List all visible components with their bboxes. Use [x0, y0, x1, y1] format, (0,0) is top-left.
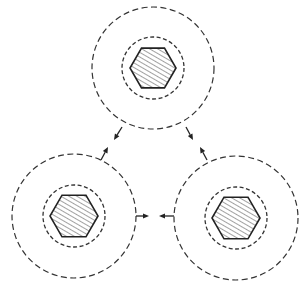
arrow-bottom-right-to-bottom-left	[159, 213, 174, 218]
arrowhead-icon	[143, 213, 149, 218]
arrowhead-icon	[159, 213, 165, 218]
particle-bottom-left	[12, 154, 136, 278]
arrow-top-to-bottom-left	[114, 127, 122, 140]
arrow-bottom-right-to-top	[200, 147, 207, 160]
particle-bottom-right	[174, 156, 298, 280]
arrow-shaft	[186, 127, 190, 135]
arrow-shaft	[117, 127, 122, 135]
arrow-bottom-left-to-top	[101, 147, 108, 160]
arrow-top-to-bottom-right	[186, 127, 193, 140]
hatched-hexagon-icon	[130, 48, 176, 88]
arrow-bottom-left-to-bottom-right	[136, 213, 149, 218]
repulsion-arrows	[101, 127, 207, 219]
hatched-hexagon-icon	[212, 197, 260, 239]
arrow-shaft	[203, 152, 207, 160]
arrow-shaft	[101, 152, 105, 160]
particle-top	[92, 7, 214, 129]
particle-repulsion-diagram	[0, 0, 306, 283]
hatched-hexagon-icon	[50, 195, 98, 237]
particles	[12, 7, 298, 280]
